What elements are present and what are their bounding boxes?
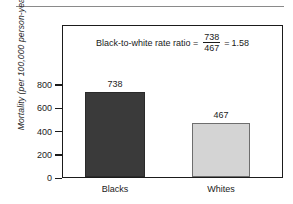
fraction-denominator: 467 xyxy=(203,44,220,53)
category-label-blacks: Blacks xyxy=(85,184,145,194)
annotation-fraction: 738 467 xyxy=(203,33,220,53)
y-tick-label-400: 400 xyxy=(18,127,52,137)
y-axis-title: Mortality (per 100,000 person-years) xyxy=(16,0,26,144)
bar-whites xyxy=(192,123,250,177)
y-tick-label-0: 0 xyxy=(18,173,52,183)
bar-value-whites: 467 xyxy=(192,110,250,120)
y-tick-label-600: 600 xyxy=(18,103,52,113)
y-tick-mark-400 xyxy=(55,131,62,132)
bar-value-blacks: 738 xyxy=(85,79,145,89)
annotation-prefix-label: Black-to-white rate ratio = xyxy=(96,38,200,48)
y-tick-mark-600 xyxy=(55,108,62,109)
y-tick-label-200: 200 xyxy=(18,150,52,160)
fraction-numerator: 738 xyxy=(203,33,220,42)
annotation-equals-sign: = xyxy=(223,38,231,48)
top-divider-rule xyxy=(16,6,284,7)
category-label-whites: Whites xyxy=(192,184,250,194)
y-tick-mark-800 xyxy=(55,84,62,85)
rate-ratio-annotation: Black-to-white rate ratio = 738 467 = 1.… xyxy=(62,33,283,53)
y-tick-label-800: 800 xyxy=(18,80,52,90)
y-tick-mark-200 xyxy=(55,154,62,155)
y-tick-mark-0 xyxy=(55,178,62,179)
bar-blacks xyxy=(85,92,145,178)
annotation-result-value: 1.58 xyxy=(232,38,250,48)
